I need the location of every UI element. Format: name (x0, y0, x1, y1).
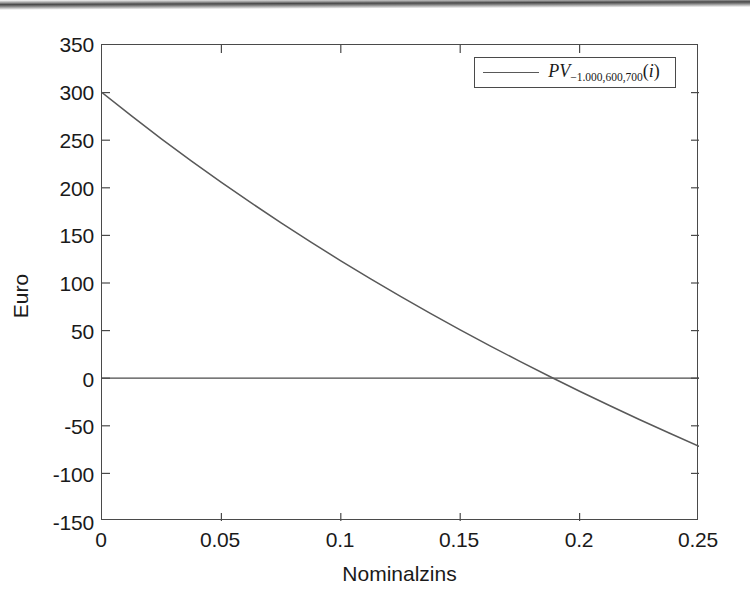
series-line-pv (102, 93, 699, 447)
ytick-label-200: 200 (26, 178, 94, 199)
x-axis-ticks-top (221, 45, 579, 53)
y-axis-ticks (102, 93, 110, 474)
legend-label-argument: (i) (643, 61, 660, 81)
legend-label: PV−1.000,600,700(i) (539, 61, 675, 83)
xtick-label-01: 0.1 (300, 529, 380, 550)
plot-area (101, 44, 698, 520)
legend-label-subscript: −1.000,600,700 (570, 72, 643, 84)
ytick-label-50: 50 (26, 321, 94, 342)
plot-svg (102, 45, 699, 521)
legend-label-base: PV (548, 61, 570, 81)
chart-figure: 350 300 250 200 150 100 50 0 -50 -100 -1… (0, 0, 750, 597)
x-axis-ticks (221, 513, 579, 521)
xtick-label-02: 0.2 (539, 529, 619, 550)
ytick-label-neg50: -50 (26, 416, 94, 437)
xtick-label-015: 0.15 (419, 529, 499, 550)
y-axis-ticks-right (691, 93, 699, 474)
y-axis-title: Euro (9, 251, 33, 341)
legend-line-swatch (483, 72, 539, 73)
ytick-label-neg100: -100 (26, 464, 94, 485)
ytick-label-350: 350 (26, 34, 94, 55)
x-axis-title: Nominalzins (101, 562, 698, 586)
chart-legend[interactable]: PV−1.000,600,700(i) (474, 57, 676, 88)
ytick-label-250: 250 (26, 130, 94, 151)
ytick-label-0: 0 (26, 369, 94, 390)
ytick-label-300: 300 (26, 82, 94, 103)
xtick-label-025: 0.25 (658, 529, 738, 550)
ytick-label-150: 150 (26, 225, 94, 246)
xtick-label-0: 0 (61, 529, 141, 550)
xtick-label-005: 0.05 (180, 529, 260, 550)
ytick-label-100: 100 (26, 273, 94, 294)
